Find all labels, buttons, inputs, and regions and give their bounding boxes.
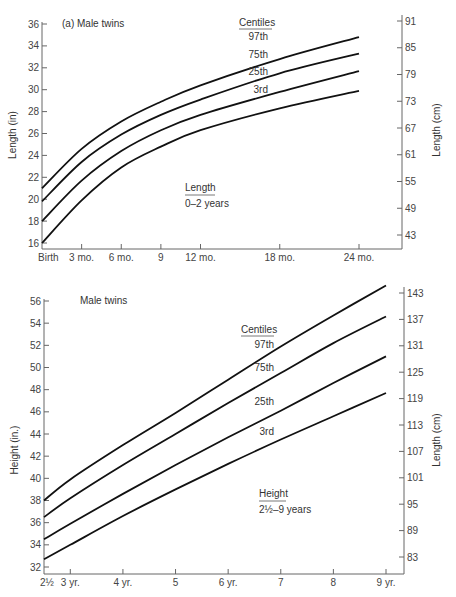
- y-tick-label: 44: [30, 429, 42, 440]
- centile-label-25th: 25th: [255, 396, 274, 407]
- y-right-tick-label: 91: [405, 16, 417, 27]
- y-right-tick-label: 113: [407, 420, 423, 431]
- x-tick-label: 2½: [40, 577, 55, 588]
- length-legend-title: Centiles: [239, 17, 275, 28]
- y-right-tick-label: 119: [407, 393, 423, 404]
- x-tick-label: 3 yr.: [61, 577, 80, 588]
- y-right-tick-label: 73: [405, 96, 417, 107]
- y-tick-label: 42: [30, 451, 42, 462]
- y-tick-label: 52: [30, 340, 42, 351]
- x-tick-label: 8: [331, 577, 337, 588]
- y-tick-label: 56: [30, 296, 42, 307]
- y-tick-label: 48: [30, 384, 42, 395]
- x-tick-label: 9 yr.: [377, 577, 396, 588]
- centile-curve-75th: [44, 317, 386, 518]
- y-right-tick-label: 89: [407, 525, 419, 536]
- centile-curve-75th: [42, 54, 359, 202]
- y-right-tick-label: 83: [407, 552, 419, 563]
- x-tick-label: 4 yr.: [113, 577, 132, 588]
- y-tick-label: 24: [28, 150, 40, 161]
- height-inset-title: Height: [259, 488, 288, 499]
- y-tick-label: 22: [28, 172, 40, 183]
- centile-curve-3rd: [42, 91, 359, 243]
- length-chart-curves: [42, 37, 359, 243]
- y-right-tick-label: 49: [405, 203, 417, 214]
- x-tick-label: 9: [158, 252, 164, 263]
- y-right-tick-label: 85: [405, 42, 417, 53]
- length-chart-title: (a) Male twins: [62, 18, 124, 29]
- y-tick-label: 18: [28, 216, 40, 227]
- y-right-tick-label: 125: [407, 367, 424, 378]
- y-tick-label: 38: [30, 495, 42, 506]
- centile-label-3rd: 3rd: [254, 84, 268, 95]
- y-tick-label: 32: [30, 562, 42, 573]
- centile-label-75th: 75th: [249, 49, 268, 60]
- length-chart-axes: 1618202224262830323436Birth3 mo.6 mo.912…: [28, 15, 417, 263]
- x-tick-label: 7: [278, 577, 284, 588]
- x-tick-label: Birth: [38, 252, 59, 263]
- y-right-tick-label: 143: [407, 288, 424, 299]
- y-tick-label: 34: [30, 539, 42, 550]
- centile-label-97th: 97th: [255, 339, 274, 350]
- centile-label-75th: 75th: [255, 362, 274, 373]
- length-y-axis-label: Length (in): [7, 111, 18, 159]
- y-tick-label: 34: [28, 40, 40, 51]
- y-tick-label: 26: [28, 128, 40, 139]
- height-legend-title: Centiles: [241, 324, 277, 335]
- height-y-axis-right-label: Length (cm): [431, 413, 442, 466]
- length-inset-title: Length: [185, 182, 216, 193]
- y-tick-label: 20: [28, 194, 40, 205]
- centile-label-97th: 97th: [249, 31, 268, 42]
- y-right-tick-label: 101: [407, 472, 424, 483]
- y-right-tick-label: 61: [405, 149, 417, 160]
- centile-curve-3rd: [44, 393, 386, 559]
- y-tick-label: 50: [30, 362, 42, 373]
- x-tick-label: 18 mo.: [264, 252, 295, 263]
- x-tick-label: 12 mo.: [185, 252, 216, 263]
- y-tick-label: 46: [30, 406, 42, 417]
- x-tick-label: 6 yr.: [219, 577, 238, 588]
- length-y-axis-right-label: Length (cm): [431, 103, 442, 156]
- x-tick-label: 6 mo.: [109, 252, 134, 263]
- y-tick-label: 16: [28, 238, 40, 249]
- y-tick-label: 40: [30, 473, 42, 484]
- y-right-tick-label: 137: [407, 314, 424, 325]
- centile-curve-97th: [44, 285, 386, 500]
- height-y-axis-label: Height (in.): [9, 426, 20, 475]
- y-tick-label: 30: [28, 84, 40, 95]
- x-tick-label: 5: [173, 577, 179, 588]
- growth-charts: 1618202224262830323436Birth3 mo.6 mo.912…: [0, 0, 456, 597]
- height-chart-curves: [44, 285, 386, 559]
- y-tick-label: 32: [28, 62, 40, 73]
- y-right-tick-label: 131: [407, 340, 424, 351]
- centile-curve-97th: [42, 37, 359, 188]
- y-tick-label: 36: [28, 19, 40, 30]
- height-chart-2-9-years: 323436384042444648505254562½3 yr.4 yr.56…: [9, 285, 442, 588]
- centile-label-3rd: 3rd: [260, 426, 274, 437]
- height-chart-title: Male twins: [80, 295, 127, 306]
- y-right-tick-label: 43: [405, 230, 417, 241]
- centile-label-25th: 25th: [249, 66, 268, 77]
- y-tick-label: 54: [30, 318, 42, 329]
- y-tick-label: 36: [30, 517, 42, 528]
- y-right-tick-label: 55: [405, 176, 417, 187]
- length-chart-0-2-years: 1618202224262830323436Birth3 mo.6 mo.912…: [7, 15, 442, 263]
- x-tick-label: 3 mo.: [69, 252, 94, 263]
- height-inset-range: 2½–9 years: [259, 504, 311, 515]
- y-tick-label: 28: [28, 106, 40, 117]
- y-right-tick-label: 79: [405, 69, 417, 80]
- y-right-tick-label: 107: [407, 446, 424, 457]
- length-inset-range: 0–2 years: [185, 198, 229, 209]
- x-tick-label: 24 mo.: [344, 252, 375, 263]
- y-right-tick-label: 67: [405, 123, 417, 134]
- centile-curve-25th: [44, 356, 386, 539]
- y-right-tick-label: 95: [407, 499, 419, 510]
